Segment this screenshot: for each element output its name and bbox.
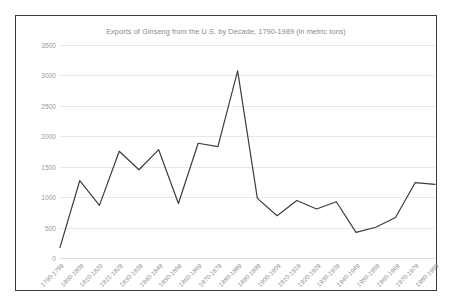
y-tick-label-2000: 2000 xyxy=(41,133,56,140)
plot-area: 0500100015002000250030003500 1790-179918… xyxy=(60,45,435,258)
y-tick-label-3500: 3500 xyxy=(41,42,56,49)
y-tick-label-500: 500 xyxy=(45,224,56,231)
chart-title: Exports of Ginseng from the U.S. by Deca… xyxy=(16,27,436,36)
y-tick-label-1000: 1000 xyxy=(41,194,56,201)
y-tick-label-1500: 1500 xyxy=(41,163,56,170)
line-series xyxy=(60,45,435,258)
y-tick-label-2500: 2500 xyxy=(41,102,56,109)
ginseng-exports-line xyxy=(60,71,435,247)
gridline-0 xyxy=(60,258,435,259)
y-tick-label-0: 0 xyxy=(52,255,56,262)
y-tick-label-3000: 3000 xyxy=(41,72,56,79)
chart-frame: Exports of Ginseng from the U.S. by Deca… xyxy=(15,15,437,291)
